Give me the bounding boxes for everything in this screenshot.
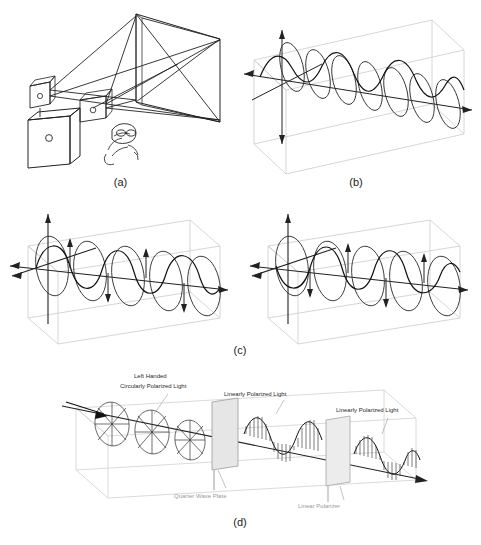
label-circularly-polarized: Circularly Polarized Light bbox=[120, 383, 187, 389]
label-linear-polarizer: Linear Polarizer bbox=[298, 503, 340, 509]
panel-a-projector-setup bbox=[8, 4, 233, 174]
label-linearly-polarized-1: Linearly Polarized Light bbox=[224, 391, 287, 397]
label-left-handed: Left Handed bbox=[134, 373, 167, 379]
caption-b: (b) bbox=[236, 176, 476, 188]
label-quarter-wave-plate: Quarter Wave Plate bbox=[174, 493, 227, 499]
panel-d-waveplate-polarizer-chain: Left Handed Circularly Polarized Light L… bbox=[48, 362, 438, 512]
caption-a: (a) bbox=[8, 176, 233, 188]
panel-c-right-circular-wave bbox=[240, 196, 476, 351]
panel-b-linear-wave bbox=[236, 4, 476, 174]
caption-c: (c) bbox=[4, 344, 476, 356]
label-linearly-polarized-2: Linearly Polarized Light bbox=[336, 407, 399, 413]
figure-sheet: (a) bbox=[0, 0, 481, 545]
caption-d: (d) bbox=[4, 516, 476, 528]
panel-c-left-circular-wave bbox=[4, 196, 234, 351]
